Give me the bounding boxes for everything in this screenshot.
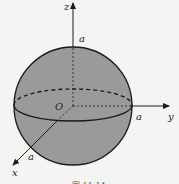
y-intercept-label: a <box>136 111 142 122</box>
sphere-diagram: z a O a y a x 图 11-14 <box>0 0 179 184</box>
origin-label: O <box>55 101 63 112</box>
z-intercept-label: a <box>79 33 85 44</box>
figure-caption: 图 11-14 <box>72 181 106 184</box>
y-axis-label: y <box>167 111 174 122</box>
z-axis-label: z <box>63 1 70 12</box>
x-intercept-label: a <box>28 151 34 162</box>
x-axis-label: x <box>12 167 18 178</box>
